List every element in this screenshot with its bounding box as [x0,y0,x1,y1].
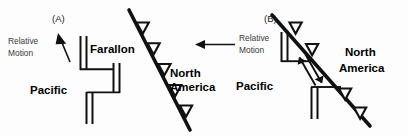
panel-b-label-north-america-line2: America [339,62,385,74]
relative-motion-left-annotation: Relative Motion [8,33,70,62]
relative-motion-left-arrow-icon [56,33,70,62]
relative-motion-left-line1: Relative [8,36,39,46]
panel-a-label-north-america-line2: America [170,81,216,93]
panel-b-label-pacific: Pacific [236,80,274,92]
relative-motion-right-arrow-icon [195,40,205,49]
panel-a: (A) Relative Motion [8,10,270,130]
panel-b: (B) [236,13,385,126]
relative-motion-right-line1: Relative [239,33,270,43]
tectonic-figure: (A) Relative Motion [0,0,408,136]
panel-b-label-north-america-line1: North [345,46,376,58]
panel-a-label-farallon: Farallon [90,43,135,55]
subduction-tooth [290,23,302,34]
panel-a-label-pacific: Pacific [30,84,68,96]
relative-motion-left-line2: Motion [8,48,33,58]
figure-canvas: (A) Relative Motion [0,0,408,136]
panel-a-label-north-america-line1: North [170,67,201,79]
relative-motion-right-annotation: Relative Motion [195,33,270,55]
panel-a-letter: (A) [52,13,65,24]
panel-b-ridge-lower [311,87,341,119]
relative-motion-right-line2: Motion [239,45,264,55]
